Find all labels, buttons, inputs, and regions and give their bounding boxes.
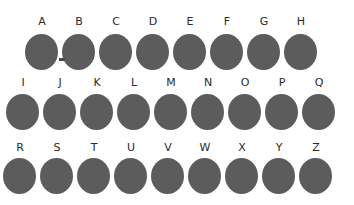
letter-item-u: U (114, 142, 148, 202)
circle (225, 158, 258, 194)
letter-item-a: A (25, 16, 59, 76)
letter-item-d: D (136, 16, 170, 76)
letter-label: I (6, 77, 40, 89)
letter-item-t: T (77, 142, 111, 202)
letter-item-r: R (3, 142, 37, 202)
circle (40, 158, 73, 194)
letter-label: J (43, 77, 77, 89)
circle (114, 158, 147, 194)
letter-item-m: M (154, 77, 188, 137)
tail-mark (59, 58, 65, 61)
letter-item-q: Q (302, 77, 336, 137)
letter-item-i: I (6, 77, 40, 137)
letter-item-k: K (80, 77, 114, 137)
circle (154, 94, 187, 130)
circle (136, 34, 169, 70)
circle (228, 94, 261, 130)
letter-label: Y (262, 142, 296, 154)
letter-label: R (3, 142, 37, 154)
letter-label: H (284, 16, 318, 28)
letter-label: D (136, 16, 170, 28)
letter-item-c: C (99, 16, 133, 76)
letter-label: A (25, 16, 59, 28)
letter-item-b: B (62, 16, 96, 76)
letter-item-h: H (284, 16, 318, 76)
letter-item-w: W (188, 142, 222, 202)
letter-item-v: V (151, 142, 185, 202)
letter-item-o: O (228, 77, 262, 137)
letter-label: U (114, 142, 148, 154)
circle (3, 158, 36, 194)
letter-label: C (99, 16, 133, 28)
circle (188, 158, 221, 194)
letter-label: S (40, 142, 74, 154)
circle (302, 94, 335, 130)
letter-item-l: L (117, 77, 151, 137)
circle (173, 34, 206, 70)
circle (62, 34, 95, 70)
letter-item-z: Z (299, 142, 333, 202)
circle (210, 34, 243, 70)
circle (284, 34, 317, 70)
letter-item-n: N (191, 77, 225, 137)
letter-label: X (225, 142, 259, 154)
letter-label: B (62, 16, 96, 28)
letter-label: P (265, 77, 299, 89)
letter-item-y: Y (262, 142, 296, 202)
letter-label: V (151, 142, 185, 154)
letter-label: K (80, 77, 114, 89)
circle (99, 34, 132, 70)
letter-item-p: P (265, 77, 299, 137)
circle (262, 158, 295, 194)
letter-label: L (117, 77, 151, 89)
circle (6, 94, 39, 130)
letter-label: O (228, 77, 262, 89)
circle (265, 94, 298, 130)
letter-label: Q (302, 77, 336, 89)
circle (247, 34, 280, 70)
letter-item-s: S (40, 142, 74, 202)
letter-label: T (77, 142, 111, 154)
circle (299, 158, 332, 194)
letter-label: N (191, 77, 225, 89)
circle (151, 158, 184, 194)
letter-item-g: G (247, 16, 281, 76)
circle (43, 94, 76, 130)
letter-label: G (247, 16, 281, 28)
letter-item-j: J (43, 77, 77, 137)
letter-label: Z (299, 142, 333, 154)
letter-label: M (154, 77, 188, 89)
circle (25, 34, 58, 70)
circle (77, 158, 110, 194)
circle (117, 94, 150, 130)
circle (191, 94, 224, 130)
letter-item-f: F (210, 16, 244, 76)
circle (80, 94, 113, 130)
letter-label: E (173, 16, 207, 28)
letter-label: W (188, 142, 222, 154)
letter-label: F (210, 16, 244, 28)
letter-item-x: X (225, 142, 259, 202)
letter-item-e: E (173, 16, 207, 76)
